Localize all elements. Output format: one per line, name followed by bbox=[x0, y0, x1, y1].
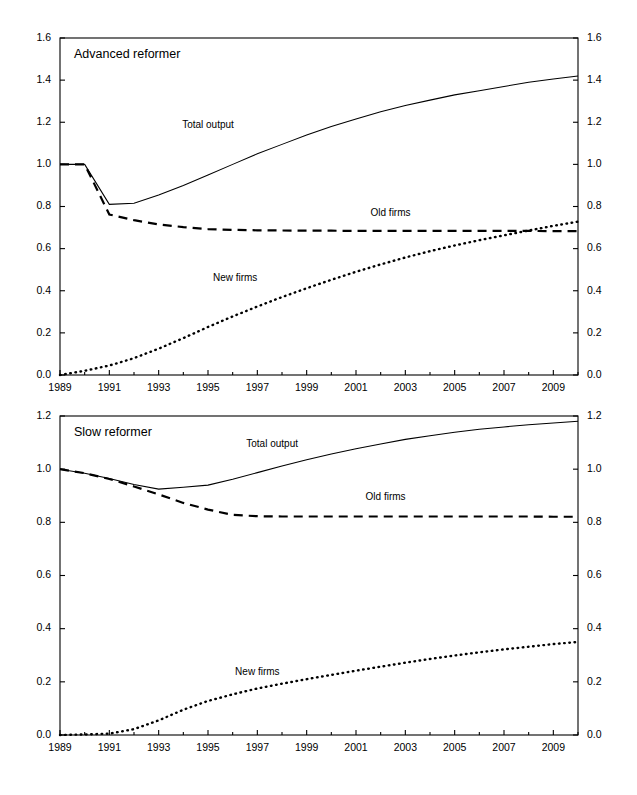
x-axis-tick-label: 1993 bbox=[147, 381, 171, 393]
x-axis-tick-label: 1995 bbox=[196, 741, 220, 753]
y-axis-tick-label-right: 0.6 bbox=[587, 241, 602, 253]
x-axis-tick-label: 2003 bbox=[394, 741, 418, 753]
slow-reformer-plot: 0.00.00.20.20.40.40.60.60.80.81.01.01.21… bbox=[0, 398, 637, 795]
x-axis-tick-label: 2005 bbox=[443, 741, 467, 753]
y-axis-tick-label-left: 1.4 bbox=[36, 73, 51, 85]
x-axis-tick-label: 2001 bbox=[344, 381, 368, 393]
y-axis-tick-label-left: 0.2 bbox=[36, 326, 51, 338]
y-axis-tick-label-right: 1.0 bbox=[587, 462, 602, 474]
x-axis-tick-label: 2005 bbox=[443, 381, 467, 393]
series-label-total-output: Total output bbox=[182, 119, 234, 130]
y-axis-tick-label-left: 0.8 bbox=[36, 199, 51, 211]
y-axis-tick-label-right: 1.2 bbox=[587, 409, 602, 421]
x-axis-tick-label: 2009 bbox=[542, 381, 566, 393]
x-axis-tick-label: 1997 bbox=[246, 381, 270, 393]
y-axis-tick-label-right: 0.2 bbox=[587, 675, 602, 687]
y-axis-tick-label-right: 0.4 bbox=[587, 284, 602, 296]
y-axis-tick-label-left: 0.0 bbox=[36, 728, 51, 740]
series-line-new-firms bbox=[60, 222, 578, 375]
advanced-reformer-plot: 0.00.00.20.20.40.40.60.60.80.81.01.01.21… bbox=[0, 0, 637, 400]
x-axis-tick-label: 1995 bbox=[196, 381, 220, 393]
y-axis-tick-label-right: 0.2 bbox=[587, 326, 602, 338]
y-axis-tick-label-left: 0.6 bbox=[36, 568, 51, 580]
x-axis-tick-label: 1989 bbox=[48, 381, 72, 393]
y-axis-tick-label-left: 0.4 bbox=[36, 284, 51, 296]
panel-title: Advanced reformer bbox=[74, 47, 180, 61]
x-axis-tick-label: 2009 bbox=[542, 741, 566, 753]
panel-title: Slow reformer bbox=[74, 425, 152, 439]
chart-panel-slow-reformer: 0.00.00.20.20.40.40.60.60.80.81.01.01.21… bbox=[0, 398, 637, 795]
x-axis-tick-label: 1997 bbox=[246, 741, 270, 753]
y-axis-tick-label-right: 0.0 bbox=[587, 368, 602, 380]
x-axis-tick-label: 1991 bbox=[98, 381, 122, 393]
series-line-old-firms bbox=[60, 469, 578, 517]
chart-panel-advanced-reformer: 0.00.00.20.20.40.40.60.60.80.81.01.01.21… bbox=[0, 0, 637, 400]
y-axis-tick-label-left: 1.0 bbox=[36, 462, 51, 474]
x-axis-tick-label: 1991 bbox=[98, 741, 122, 753]
series-line-old-firms bbox=[60, 164, 578, 231]
y-axis-tick-label-right: 0.8 bbox=[587, 515, 602, 527]
y-axis-tick-label-right: 1.4 bbox=[587, 73, 602, 85]
x-axis-tick-label: 1989 bbox=[48, 741, 72, 753]
y-axis-tick-label-right: 0.8 bbox=[587, 199, 602, 211]
x-axis-tick-label: 2003 bbox=[394, 381, 418, 393]
series-line-new-firms bbox=[60, 642, 578, 735]
y-axis-tick-label-right: 0.0 bbox=[587, 728, 602, 740]
x-axis-tick-label: 1999 bbox=[295, 381, 319, 393]
series-label-new-firms: New firms bbox=[213, 272, 257, 283]
series-label-old-firms: Old firms bbox=[371, 207, 411, 218]
y-axis-tick-label-left: 1.2 bbox=[36, 409, 51, 421]
x-axis-tick-label: 1993 bbox=[147, 741, 171, 753]
series-label-total-output: Total output bbox=[246, 438, 298, 449]
plot-frame bbox=[60, 416, 578, 735]
y-axis-tick-label-right: 0.4 bbox=[587, 621, 602, 633]
series-label-new-firms: New firms bbox=[235, 666, 279, 677]
y-axis-tick-label-left: 0.0 bbox=[36, 368, 51, 380]
y-axis-tick-label-right: 1.2 bbox=[587, 115, 602, 127]
x-axis-tick-label: 2001 bbox=[344, 741, 368, 753]
y-axis-tick-label-right: 1.0 bbox=[587, 157, 602, 169]
y-axis-tick-label-left: 0.6 bbox=[36, 241, 51, 253]
y-axis-tick-label-left: 1.6 bbox=[36, 31, 51, 43]
y-axis-tick-label-right: 1.6 bbox=[587, 31, 602, 43]
series-line-total-output bbox=[60, 76, 578, 204]
y-axis-tick-label-left: 0.2 bbox=[36, 675, 51, 687]
y-axis-tick-label-right: 0.6 bbox=[587, 568, 602, 580]
x-axis-tick-label: 1999 bbox=[295, 741, 319, 753]
y-axis-tick-label-left: 1.2 bbox=[36, 115, 51, 127]
plot-frame bbox=[60, 38, 578, 375]
y-axis-tick-label-left: 0.8 bbox=[36, 515, 51, 527]
x-axis-tick-label: 2007 bbox=[492, 381, 516, 393]
series-label-old-firms: Old firms bbox=[366, 491, 406, 502]
x-axis-tick-label: 2007 bbox=[492, 741, 516, 753]
y-axis-tick-label-left: 0.4 bbox=[36, 621, 51, 633]
y-axis-tick-label-left: 1.0 bbox=[36, 157, 51, 169]
